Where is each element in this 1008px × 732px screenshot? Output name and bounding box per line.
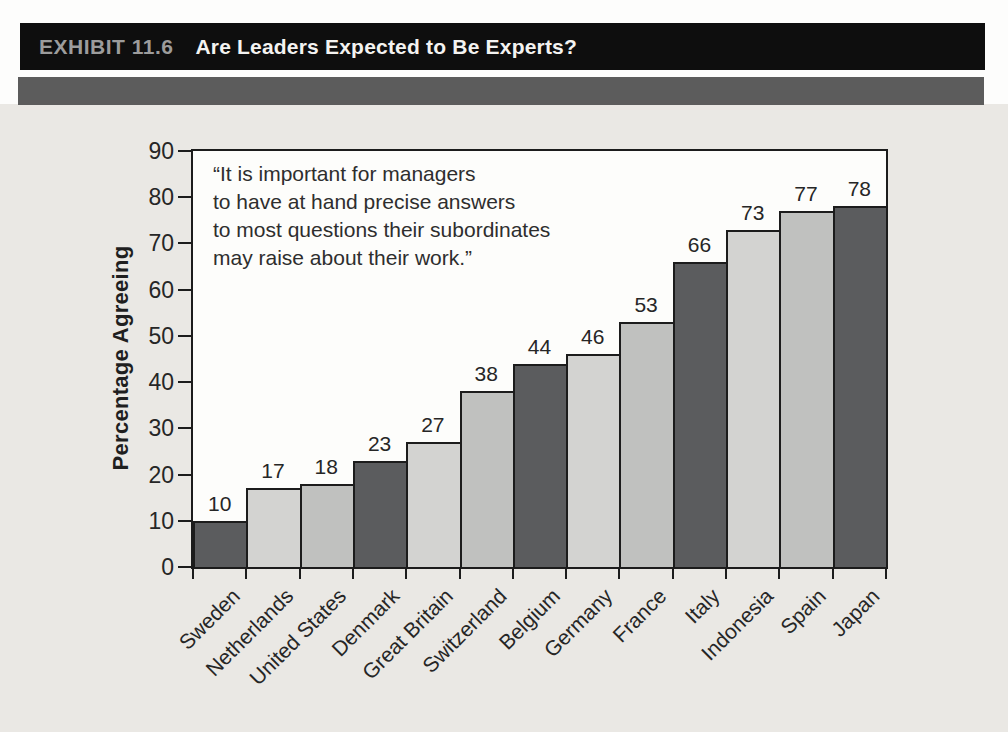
y-tick-mark bbox=[178, 196, 191, 198]
bar-sweden bbox=[193, 521, 246, 567]
y-tick-mark bbox=[178, 289, 191, 291]
x-tick-mark bbox=[459, 569, 461, 579]
bar-germany bbox=[566, 354, 619, 567]
y-tick-label: 40 bbox=[100, 369, 174, 395]
y-tick-label: 70 bbox=[100, 230, 174, 256]
y-tick-label: 10 bbox=[100, 508, 174, 534]
x-tick-mark bbox=[885, 569, 887, 579]
bar-netherlands bbox=[246, 488, 299, 567]
bar-value-label: 78 bbox=[833, 177, 886, 201]
bar-value-label: 73 bbox=[726, 201, 779, 225]
x-tick-mark bbox=[565, 569, 567, 579]
y-tick-label: 50 bbox=[100, 323, 174, 349]
x-tick-mark bbox=[299, 569, 301, 579]
bar-value-label: 17 bbox=[246, 459, 299, 483]
bar-value-label: 53 bbox=[619, 293, 672, 317]
exhibit-header-bar: EXHIBIT 11.6 Are Leaders Expected to Be … bbox=[20, 23, 985, 70]
bar-japan bbox=[833, 206, 886, 567]
y-tick-mark bbox=[178, 427, 191, 429]
y-tick-mark bbox=[178, 335, 191, 337]
bar-belgium bbox=[513, 364, 566, 567]
bar-spain bbox=[779, 211, 832, 567]
bar-switzerland bbox=[460, 391, 513, 567]
bar-great-britain bbox=[406, 442, 459, 567]
exhibit-title: Are Leaders Expected to Be Experts? bbox=[195, 35, 577, 59]
y-tick-label: 60 bbox=[100, 277, 174, 303]
y-tick-label: 0 bbox=[100, 554, 174, 580]
quote-line: “It is important for managers bbox=[213, 160, 550, 188]
header-rule-bar bbox=[18, 77, 984, 105]
x-tick-mark bbox=[512, 569, 514, 579]
x-tick-mark bbox=[245, 569, 247, 579]
bar-value-label: 27 bbox=[406, 413, 459, 437]
y-tick-mark bbox=[178, 566, 191, 568]
bar-united-states bbox=[300, 484, 353, 567]
y-tick-mark bbox=[178, 474, 191, 476]
exhibit-number-label: EXHIBIT 11.6 bbox=[39, 35, 173, 59]
x-tick-mark bbox=[192, 569, 194, 579]
quote-line: to most questions their subordinates bbox=[213, 216, 550, 244]
y-tick-label: 80 bbox=[100, 184, 174, 210]
bar-value-label: 44 bbox=[513, 335, 566, 359]
x-tick-mark bbox=[725, 569, 727, 579]
y-tick-mark bbox=[178, 381, 191, 383]
bar-france bbox=[619, 322, 672, 567]
x-tick-mark bbox=[352, 569, 354, 579]
bar-value-label: 66 bbox=[673, 233, 726, 257]
bar-italy bbox=[673, 262, 726, 567]
y-tick-mark bbox=[178, 242, 191, 244]
y-tick-mark bbox=[178, 520, 191, 522]
bar-value-label: 18 bbox=[300, 455, 353, 479]
y-tick-label: 90 bbox=[100, 138, 174, 164]
book-page: EXHIBIT 11.6 Are Leaders Expected to Be … bbox=[0, 0, 1008, 732]
bar-value-label: 46 bbox=[566, 325, 619, 349]
x-tick-mark bbox=[618, 569, 620, 579]
bar-indonesia bbox=[726, 230, 779, 567]
bar-value-label: 23 bbox=[353, 432, 406, 456]
bar-value-label: 38 bbox=[460, 362, 513, 386]
x-tick-mark bbox=[778, 569, 780, 579]
bar-value-label: 10 bbox=[193, 492, 246, 516]
y-tick-label: 20 bbox=[100, 462, 174, 488]
x-tick-mark bbox=[405, 569, 407, 579]
quote-line: may raise about their work.” bbox=[213, 244, 550, 272]
x-tick-mark bbox=[832, 569, 834, 579]
quote-annotation: “It is important for managersto have at … bbox=[213, 160, 550, 272]
bar-value-label: 77 bbox=[779, 182, 832, 206]
x-tick-mark bbox=[672, 569, 674, 579]
y-tick-label: 30 bbox=[100, 415, 174, 441]
bar-denmark bbox=[353, 461, 406, 567]
y-tick-mark bbox=[178, 150, 191, 152]
quote-line: to have at hand precise answers bbox=[213, 188, 550, 216]
